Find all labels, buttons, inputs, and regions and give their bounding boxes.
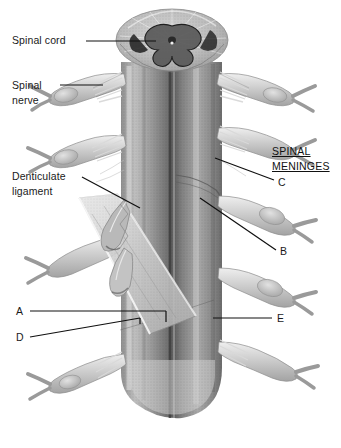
label-spinal-cord: Spinal cord bbox=[12, 34, 66, 47]
spinal-cord-figure: Spinal cord Spinal nerve Denticulate lig… bbox=[0, 0, 341, 448]
spinal-nerves-right bbox=[217, 72, 318, 388]
marker-c: C bbox=[278, 176, 286, 188]
anatomy-illustration bbox=[0, 0, 341, 448]
label-spinal-meninges-line2: MENINGES bbox=[272, 160, 330, 172]
label-denticulate-ligament-line1: Denticulate bbox=[12, 169, 66, 183]
label-spinal-meninges-line1: SPINAL bbox=[272, 145, 311, 157]
marker-b: B bbox=[280, 245, 287, 257]
label-spinal-nerve-line1: Spinal bbox=[12, 78, 42, 92]
marker-d: D bbox=[16, 331, 24, 343]
marker-e: E bbox=[277, 312, 284, 324]
leader-c bbox=[215, 158, 274, 180]
label-spinal-nerve-line2: nerve bbox=[12, 93, 39, 107]
label-denticulate-ligament-line2: ligament bbox=[12, 184, 53, 198]
marker-a: A bbox=[16, 305, 23, 317]
